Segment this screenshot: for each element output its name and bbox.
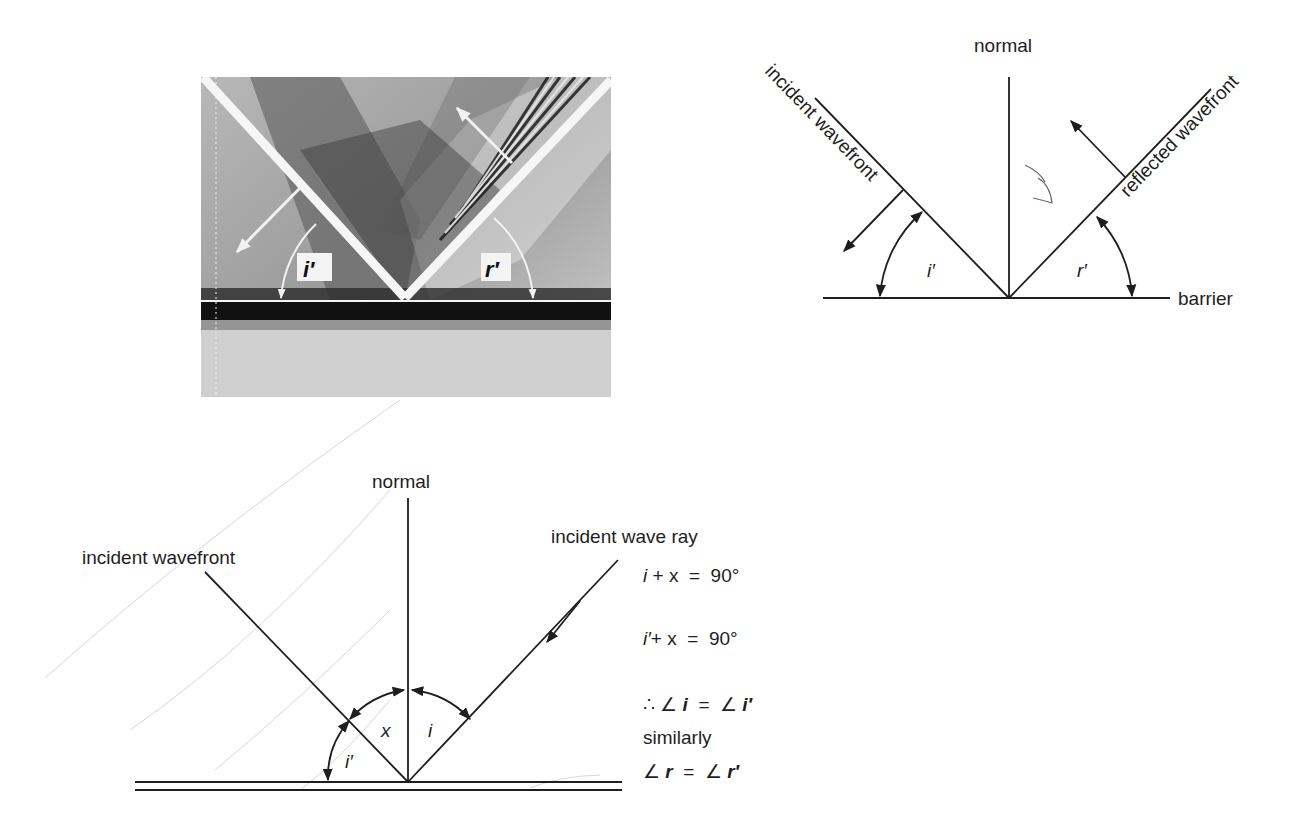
incident-ray-line	[408, 560, 618, 782]
incident-wave-ray-label: incident wave ray	[551, 526, 698, 547]
angle-arc-i-prime	[880, 212, 922, 296]
faint-background-lines	[45, 400, 600, 790]
angle-i-prime-label: i′	[345, 751, 354, 772]
angle-i-label: i	[428, 720, 433, 741]
top-angle-r-prime-label: r′	[1077, 260, 1088, 281]
incident-wavefront-line	[815, 98, 1009, 298]
top-angle-i-prime-label: i′	[927, 260, 936, 281]
angle-arc-i	[412, 690, 470, 719]
angle-x-label: x	[380, 720, 392, 741]
bottom-normal-label: normal	[372, 471, 430, 492]
similarly-label: similarly	[643, 727, 712, 748]
equation-2: i′+ x = 90°	[643, 628, 738, 649]
photo-label-r-prime: r′	[485, 257, 501, 282]
similar-equation: ∠ r = ∠ r′	[643, 761, 741, 782]
reflected-wavefront-label: reflected wavefront	[1116, 70, 1243, 201]
incident-wavefront-line	[205, 572, 408, 782]
reflected-direction-arrow	[1071, 121, 1125, 177]
top-incident-wavefront-label: incident wavefront	[761, 60, 883, 185]
incident-direction-arrow	[844, 190, 903, 251]
bottom-incident-wavefront-label: incident wavefront	[82, 547, 236, 568]
photo-label-i-prime: i′	[303, 257, 316, 282]
pencil-mark	[1025, 165, 1052, 203]
top-reflection-diagram	[815, 77, 1211, 298]
conclusion-equation: ∴ ∠ i = ∠ i′	[643, 694, 754, 715]
top-normal-label: normal	[974, 35, 1032, 56]
figure-canvas: i′ r′ normal barrier incident wavefront …	[0, 0, 1301, 816]
angle-arc-r-prime	[1097, 217, 1132, 296]
barrier-label: barrier	[1178, 288, 1234, 309]
ripple-tank-photo	[201, 77, 611, 397]
equation-1: i + x = 90°	[643, 565, 739, 586]
incident-ray-arrow	[547, 601, 580, 642]
